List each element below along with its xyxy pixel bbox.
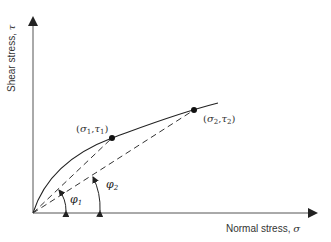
sigma-symbol: σ — [293, 223, 300, 234]
failure-envelope-curve — [33, 103, 218, 213]
phi-symbol: φ — [106, 178, 114, 191]
x-axis-label: Normal stress, σ — [226, 223, 300, 234]
failure-envelope-diagram — [0, 0, 331, 242]
y-axis-label: Shear stress, τ — [6, 25, 17, 92]
subscript: 1 — [78, 199, 82, 207]
point-1-marker — [109, 135, 115, 141]
angle-phi1-label: φ1 — [70, 193, 82, 207]
secant-line-2 — [33, 110, 194, 213]
sigma-symbol: σ — [80, 123, 87, 134]
angle-phi2-label: φ2 — [106, 178, 118, 192]
angle-phi2-arc — [93, 177, 100, 211]
point-2-label: (σ2,τ2) — [203, 113, 235, 126]
subscript: 2 — [114, 184, 118, 192]
point-2-marker — [191, 107, 197, 113]
phi-symbol: φ — [70, 193, 78, 206]
paren-close: ) — [231, 113, 235, 124]
point-1-label: (σ1,τ1) — [76, 123, 108, 136]
sigma-symbol: σ — [207, 113, 214, 124]
y-axis-label-text: Shear stress, — [6, 30, 17, 92]
tau-symbol: τ — [6, 25, 17, 31]
x-axis-label-text: Normal stress, — [226, 223, 293, 234]
angle-phi1-arc — [59, 190, 66, 211]
paren-close: ) — [104, 123, 108, 134]
